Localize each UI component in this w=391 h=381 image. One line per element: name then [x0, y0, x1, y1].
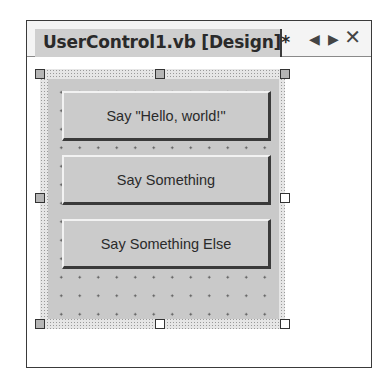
usercontrol-selection-frame[interactable]: Say "Hello, world!" Say Something Say So…: [40, 69, 285, 329]
resize-handle-bottom-right[interactable]: [280, 319, 290, 329]
resize-handle-bottom-left[interactable]: [35, 319, 45, 329]
resize-handle-bottom-center[interactable]: [155, 319, 165, 329]
say-something-button[interactable]: Say Something: [62, 155, 271, 205]
design-surface-area: Say "Hello, world!" Say Something Say So…: [27, 57, 371, 367]
scroll-left-icon[interactable]: ◀: [309, 30, 320, 48]
resize-handle-top-left[interactable]: [35, 69, 45, 79]
say-something-else-button[interactable]: Say Something Else: [62, 219, 271, 269]
tab-label: UserControl1.vb [Design]*: [43, 32, 290, 52]
usercontrol-surface[interactable]: Say "Hello, world!" Say Something Say So…: [48, 79, 279, 319]
resize-handle-middle-right[interactable]: [280, 193, 290, 203]
scroll-right-icon[interactable]: ▶: [328, 30, 339, 48]
close-icon[interactable]: ✕: [344, 26, 361, 48]
designer-window: UserControl1.vb [Design]* ◀ ▶ ✕ Say "Hel…: [26, 20, 372, 368]
tab-strip: UserControl1.vb [Design]* ◀ ▶ ✕: [27, 21, 371, 57]
resize-handle-top-right[interactable]: [280, 69, 290, 79]
resize-handle-top-center[interactable]: [155, 69, 165, 79]
say-hello-world-button[interactable]: Say "Hello, world!": [62, 91, 271, 141]
tab-usercontrol1-design[interactable]: UserControl1.vb [Design]*: [35, 29, 282, 57]
resize-handle-middle-left[interactable]: [35, 193, 45, 203]
